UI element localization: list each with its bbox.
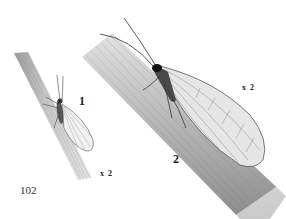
figure-2-number: 2 xyxy=(173,152,179,167)
figure-1-magnification: x 2 xyxy=(100,169,113,178)
figure-1-number: 1 xyxy=(79,94,85,109)
stem-1 xyxy=(14,52,92,180)
page-number: 102 xyxy=(20,184,37,196)
figure-2-magnification: x 2 xyxy=(242,83,255,92)
illustration-plate xyxy=(0,0,286,219)
